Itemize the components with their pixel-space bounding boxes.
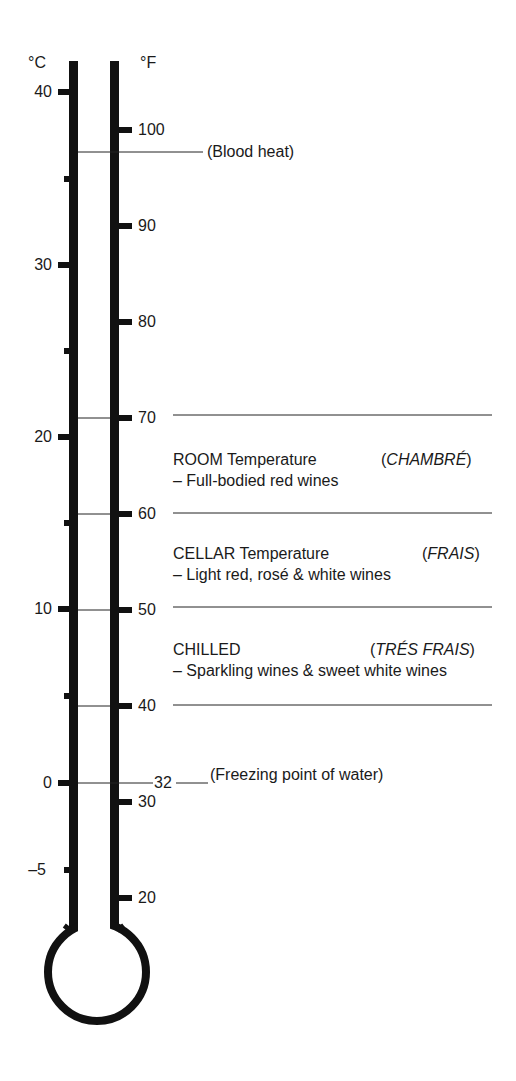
zone-room-french: (CHAMBRÉ) bbox=[381, 451, 472, 469]
celsius-label: –5 bbox=[28, 861, 46, 879]
zone-room-title: ROOM Temperature bbox=[173, 451, 317, 469]
zone-chilled-desc: – Sparkling wines & sweet white wines bbox=[173, 662, 447, 680]
fahrenheit-label: 20 bbox=[138, 889, 156, 907]
fahrenheit-label: 60 bbox=[138, 505, 156, 523]
fahrenheit-label: 70 bbox=[138, 409, 156, 427]
zone-chilled-french: (TRÉS FRAIS) bbox=[370, 641, 475, 659]
freezing-annotation: (Freezing point of water) bbox=[210, 766, 383, 784]
celsius-ticks bbox=[58, 89, 69, 873]
right-tube-wall bbox=[110, 61, 119, 927]
freezing-value: 32 bbox=[154, 774, 172, 792]
fahrenheit-ticks bbox=[119, 127, 132, 901]
fahrenheit-label: 80 bbox=[138, 313, 156, 331]
zone-room-desc: – Full-bodied red wines bbox=[173, 472, 338, 490]
celsius-label: 10 bbox=[34, 600, 52, 618]
celsius-label: 40 bbox=[34, 83, 52, 101]
celsius-label: 0 bbox=[43, 774, 52, 792]
celsius-label: 30 bbox=[34, 256, 52, 274]
fahrenheit-label: 30 bbox=[138, 793, 156, 811]
celsius-unit-label: °C bbox=[28, 54, 46, 72]
zone-cellar-title: CELLAR Temperature bbox=[173, 545, 329, 563]
fahrenheit-unit-label: °F bbox=[140, 54, 156, 72]
fahrenheit-label: 50 bbox=[138, 601, 156, 619]
zone-cellar-desc: – Light red, rosé & white wines bbox=[173, 566, 391, 584]
zone-cellar-french: (FRAIS) bbox=[422, 545, 480, 563]
fahrenheit-label: 90 bbox=[138, 217, 156, 235]
celsius-label: 20 bbox=[34, 428, 52, 446]
thermometer-bulb bbox=[48, 923, 146, 1021]
thermometer-graphic bbox=[0, 0, 516, 1081]
fahrenheit-label: 40 bbox=[138, 697, 156, 715]
left-tube-wall bbox=[69, 61, 78, 927]
zone-chilled-title: CHILLED bbox=[173, 641, 241, 659]
fahrenheit-label: 100 bbox=[138, 121, 165, 139]
blood-heat-annotation: (Blood heat) bbox=[207, 143, 294, 161]
